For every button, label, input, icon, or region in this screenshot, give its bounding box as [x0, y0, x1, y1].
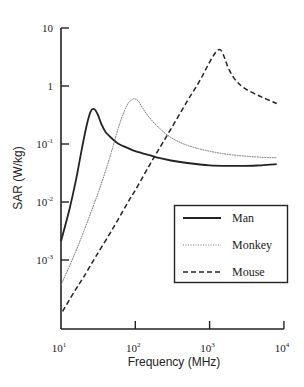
- x-axis-title: Frequency (MHz): [128, 355, 221, 369]
- legend: ManMonkeyMouse: [175, 206, 288, 283]
- y-tick-label: 10-2: [36, 195, 53, 208]
- legend-label-monkey: Monkey: [232, 238, 272, 252]
- x-tick-label: 104: [275, 341, 290, 354]
- legend-label-man: Man: [232, 211, 254, 225]
- x-tick-label: 103: [200, 341, 215, 354]
- y-tick-label: 1: [48, 80, 54, 92]
- y-tick-label: 10-3: [36, 253, 53, 266]
- y-tick-label: 10: [42, 22, 54, 34]
- sar-frequency-chart: 10110-110-210-3101102103104 ManMonkeyMou…: [0, 0, 304, 387]
- legend-label-mouse: Mouse: [232, 265, 265, 279]
- y-tick-label: 10-1: [36, 137, 53, 150]
- x-tick-label: 101: [52, 341, 67, 354]
- y-axis-title: SAR (W/kg): [11, 146, 25, 209]
- x-tick-label: 102: [126, 341, 141, 354]
